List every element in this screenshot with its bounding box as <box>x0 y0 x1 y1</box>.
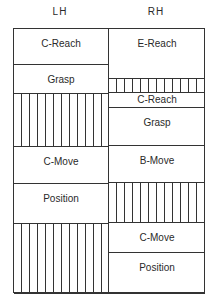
lh-element-position: Position <box>14 184 109 224</box>
lh-delay-block <box>14 224 109 294</box>
element-label: B-Move <box>140 155 174 182</box>
element-label: E-Reach <box>138 38 177 78</box>
simo-chart: C-ReachGraspC-MovePositionE-ReachC-Reach… <box>13 28 205 293</box>
element-label: Position <box>139 262 175 293</box>
rh-element-position: Position <box>109 253 205 294</box>
element-label: C-Reach <box>41 38 80 64</box>
lh-element-c-move: C-Move <box>14 147 109 184</box>
lh-header: LH <box>30 6 90 17</box>
element-label: C-Move <box>139 232 174 252</box>
element-label: Position <box>43 193 79 223</box>
rh-header: RH <box>126 6 186 17</box>
element-label: Grasp <box>143 117 170 145</box>
element-label: C-Reach <box>137 94 176 107</box>
rh-delay-block <box>109 183 205 223</box>
lh-element-grasp: Grasp <box>14 65 109 94</box>
element-label: Grasp <box>47 74 74 93</box>
lh-element-c-reach: C-Reach <box>14 29 109 65</box>
rh-delay-block <box>109 79 205 93</box>
rh-element-c-reach: C-Reach <box>109 93 205 108</box>
rh-element-e-reach: E-Reach <box>109 29 205 79</box>
rh-element-c-move: C-Move <box>109 223 205 253</box>
lh-delay-block <box>14 94 109 147</box>
element-label: C-Move <box>43 156 78 183</box>
rh-element-grasp: Grasp <box>109 108 205 146</box>
rh-element-b-move: B-Move <box>109 146 205 183</box>
